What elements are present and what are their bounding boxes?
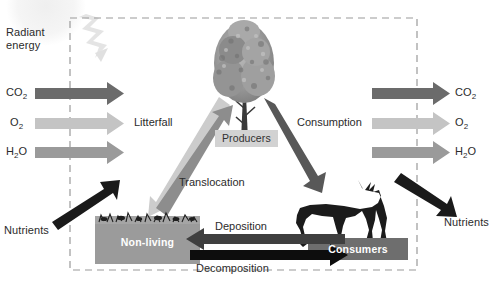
o2-in-label-text: O (10, 116, 19, 128)
consumption-label: Consumption (297, 116, 362, 128)
co2-out-arrow (372, 82, 450, 105)
radiant-energy-bolt-icon (79, 14, 108, 62)
h2o-in-label: H2O (6, 145, 27, 160)
decomposition-label: Decomposition (196, 262, 269, 274)
co2-out-label-text: CO (455, 86, 472, 98)
nutrients-out-arrow (394, 173, 457, 217)
h2o-out-arrow (372, 141, 450, 164)
h2o-out-label-tail: O (468, 145, 477, 157)
radiant-energy-line2: energy (6, 39, 40, 51)
h2o-out-label: H2O (455, 145, 476, 160)
consumers-label: Consumers (308, 243, 408, 255)
h2o-in-label-text: H (6, 145, 14, 157)
o2-out-label-text: O (455, 116, 464, 128)
ecosystem-diagram: Radiant energy CO2 O2 H2O Nutrients CO2 … (0, 0, 490, 284)
o2-out-label-sub: 2 (464, 122, 469, 131)
nutrients-out-label: Nutrients (444, 216, 489, 229)
radiant-energy-line1: Radiant (6, 26, 45, 38)
o2-in-arrow (35, 112, 124, 135)
h2o-in-arrow (35, 141, 124, 164)
o2-out-arrow (372, 112, 450, 135)
o2-in-label: O2 (10, 116, 23, 131)
nutrients-in-label: Nutrients (4, 224, 49, 237)
co2-in-label-text: CO (6, 86, 23, 98)
co2-in-label: CO2 (6, 86, 27, 101)
co2-in-arrow (35, 82, 124, 105)
producers-label: Producers (215, 130, 278, 147)
deposition-label: Deposition (215, 220, 267, 232)
h2o-in-label-tail: O (19, 145, 28, 157)
o2-out-label: O2 (455, 116, 468, 131)
co2-out-label-sub: 2 (472, 92, 477, 101)
radiant-energy-label: Radiant energy (6, 26, 45, 52)
translocation-label: Translocation (179, 176, 245, 188)
co2-in-label-sub: 2 (23, 92, 28, 101)
nonliving-label: Non-living (95, 236, 200, 248)
co2-out-label: CO2 (455, 86, 476, 101)
o2-in-label-sub: 2 (19, 122, 24, 131)
litterfall-label: Litterfall (134, 116, 173, 128)
h2o-out-label-text: H (455, 145, 463, 157)
